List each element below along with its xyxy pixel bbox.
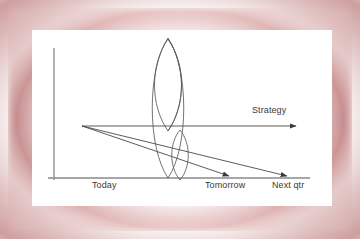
label-tomorrow: Tomorrow (205, 180, 245, 190)
diagram-screenshot: Strategy Today Tomorrow Next qtr (0, 0, 360, 239)
large-lens-shape (155, 39, 182, 131)
label-next-qtr: Next qtr (272, 180, 304, 190)
large-lens-left-arc (152, 38, 168, 178)
diagram-canvas (33, 31, 331, 205)
label-today: Today (92, 180, 117, 190)
small-lens-left-arc (172, 130, 180, 180)
tomorrow-ray (82, 126, 229, 176)
label-strategy: Strategy (252, 105, 286, 115)
next-qtr-ray (82, 126, 287, 176)
large-lens-right-arc (168, 38, 184, 178)
